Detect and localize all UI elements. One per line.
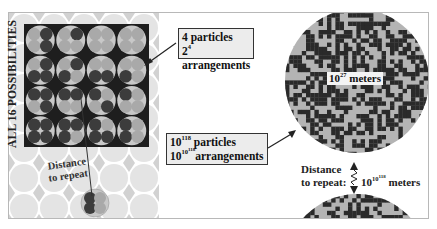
distance-label-line2: to repeat: — [301, 176, 346, 189]
distance-label-line1: Distance — [301, 163, 346, 176]
particle-count: 10118 particles — [170, 135, 264, 149]
particle-count: 4 particles — [182, 30, 250, 44]
arrangement-count: 1010118arrangements — [170, 149, 264, 163]
distance-double-arrow-icon — [350, 162, 358, 194]
repeat-sphere — [285, 194, 432, 229]
all-possibilities-title: ALL 16 POSSIBILITIES — [6, 20, 18, 148]
arrowhead-icon — [288, 130, 296, 138]
callout-arrow-large — [268, 133, 293, 148]
small-system-callout: 4 particles 24 arrangements — [178, 28, 254, 59]
distance-label-large: Distance to repeat: — [301, 163, 346, 189]
large-system-callout: 10118 particles 1010118arrangements — [166, 133, 268, 165]
sphere-size-label: 1027 meters — [327, 72, 383, 85]
distance-value-large: 1010118 meters — [361, 176, 420, 189]
arrangement-count: 24 arrangements — [182, 44, 250, 72]
figure: ALL 16 POSSIBILITIES 4 particles 24 arra… — [0, 0, 437, 229]
repeat-cell — [81, 189, 109, 217]
